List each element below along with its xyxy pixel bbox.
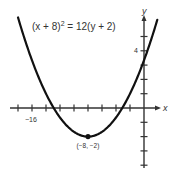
- x-axis-label: x: [162, 103, 168, 113]
- vertex-point: [85, 134, 90, 139]
- vertex-label: (−8, −2): [77, 142, 100, 150]
- parabola-curve: [18, 17, 157, 136]
- equation-label: (x + 8)2 = 12(y + 2): [32, 20, 116, 32]
- y-axis: [141, 15, 148, 168]
- parabola-chart: x y −16 4 (−8, −2) (x + 8)2 = 12(y + 2): [0, 0, 174, 172]
- equation-rhs: = 12(y + 2): [65, 21, 116, 32]
- x-tick-label: −16: [25, 116, 37, 123]
- y-tick-label: 4: [134, 47, 138, 54]
- x-axis: [10, 105, 161, 112]
- equation-lhs: (x + 8): [32, 21, 61, 32]
- y-axis-label: y: [141, 6, 147, 16]
